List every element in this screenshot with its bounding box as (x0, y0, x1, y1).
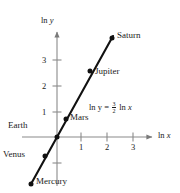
slope-fraction: 3 2 (112, 101, 116, 115)
point-label-jupiter: Jupiter (95, 67, 120, 76)
y-tick-label-3: 3 (42, 56, 46, 65)
point-label-saturn: Saturn (117, 31, 141, 40)
y-axis-label: ln y (41, 16, 54, 25)
data-point-mars (64, 117, 69, 122)
point-label-mercury: Mercury (36, 177, 67, 186)
equation-lhs: ln y (89, 102, 102, 112)
y-tick-label-1: 1 (42, 108, 46, 117)
point-label-mars: Mars (70, 113, 89, 122)
equation-equals: = (104, 102, 109, 112)
chart-canvas (0, 0, 180, 193)
slope-denominator: 2 (112, 108, 116, 114)
data-point-saturn (110, 36, 115, 41)
x-tick-label-3: 3 (131, 143, 135, 152)
log-log-planet-chart: ln y ln x 3 2 1 1 2 3 Saturn Jupiter Mar… (0, 0, 180, 193)
y-tick-label-2: 2 (42, 82, 46, 91)
slope-numerator: 3 (112, 101, 116, 108)
x-tick-label-1: 1 (79, 143, 83, 152)
point-label-earth: Earth (8, 121, 28, 130)
x-tick-label-2: 2 (105, 143, 109, 152)
equation-rhs: ln x (119, 102, 132, 112)
point-label-venus: Venus (3, 150, 25, 159)
data-point-jupiter (88, 69, 93, 74)
x-axis-label: ln x (158, 131, 171, 140)
data-point-earth (55, 135, 60, 140)
data-point-mercury (29, 182, 34, 187)
data-point-venus (43, 154, 48, 159)
equation-annotation: ln y = 3 2 ln x (89, 101, 132, 115)
